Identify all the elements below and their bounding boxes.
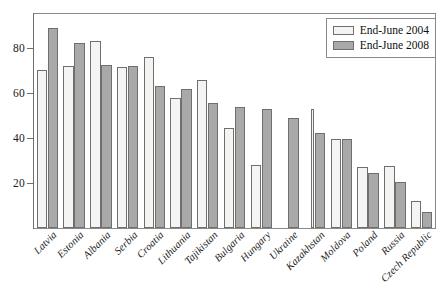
y-tick-label: 20 <box>1 177 25 189</box>
bar-kazakhstan-2004 <box>311 109 314 228</box>
bar-poland-2008 <box>368 173 378 228</box>
bar-group <box>37 14 58 228</box>
bar-group <box>251 14 272 228</box>
bar-czech-republic-2004 <box>411 201 421 228</box>
bar-serbia-2008 <box>128 66 138 228</box>
bar-lithuania-2008 <box>181 89 191 228</box>
bar-estonia-2004 <box>63 66 73 228</box>
bar-group <box>170 14 191 228</box>
bar-hungary-2008 <box>262 109 272 228</box>
bar-group <box>224 14 245 228</box>
bar-group <box>63 14 84 228</box>
bar-serbia-2004 <box>117 67 127 228</box>
bar-bulgaria-2008 <box>235 107 245 228</box>
bar-group <box>277 14 298 228</box>
legend-swatch-2004-icon <box>333 26 354 35</box>
bar-group <box>197 14 218 228</box>
bar-albania-2008 <box>101 65 111 228</box>
bar-czech-republic-2008 <box>422 212 432 228</box>
x-label-estonia: Estonia <box>55 229 86 260</box>
bar-group <box>117 14 138 228</box>
bar-tajikistan-2008 <box>208 103 218 228</box>
y-tick-label: 40 <box>1 132 25 144</box>
legend-item-2004: End-June 2004 <box>333 23 429 37</box>
y-tick-label: 80 <box>1 42 25 54</box>
y-tick-mark <box>27 183 33 184</box>
bar-group <box>144 14 165 228</box>
bar-estonia-2008 <box>74 43 84 228</box>
bar-latvia-2008 <box>48 28 58 228</box>
bar-poland-2004 <box>357 167 367 228</box>
y-tick-mark <box>27 138 33 139</box>
legend-label-2004: End-June 2004 <box>360 24 429 36</box>
bar-moldova-2008 <box>342 139 352 228</box>
bar-hungary-2004 <box>251 165 261 228</box>
bar-russia-2008 <box>395 182 405 228</box>
y-tick-label: 60 <box>1 87 25 99</box>
x-label-poland: Poland <box>350 229 380 259</box>
y-tick-mark <box>27 48 33 49</box>
bar-ukraine-2008 <box>288 118 298 228</box>
bar-albania-2004 <box>90 41 100 228</box>
bar-group <box>90 14 111 228</box>
chart-legend: End-June 2004 End-June 2008 <box>326 18 436 58</box>
bar-latvia-2004 <box>37 70 47 228</box>
bar-group <box>304 14 325 228</box>
y-tick-mark <box>27 93 33 94</box>
bar-kazakhstan-2008 <box>315 133 325 228</box>
bar-russia-2004 <box>384 166 394 228</box>
bar-bulgaria-2004 <box>224 128 234 228</box>
bar-moldova-2004 <box>331 139 341 228</box>
legend-label-2008: End-June 2008 <box>360 39 429 51</box>
legend-item-2008: End-June 2008 <box>333 38 429 52</box>
x-axis-category-labels: LatviaEstoniaAlbaniaSerbiaCroatiaLithuan… <box>0 229 448 297</box>
bar-croatia-2008 <box>155 86 165 228</box>
x-label-albania: Albania <box>81 229 113 261</box>
bar-croatia-2004 <box>144 57 154 228</box>
bar-tajikistan-2004 <box>197 80 207 228</box>
bar-chart: 20406080 LatviaEstoniaAlbaniaSerbiaCroat… <box>0 0 448 297</box>
bar-lithuania-2004 <box>170 98 180 228</box>
legend-swatch-2008-icon <box>333 41 354 50</box>
